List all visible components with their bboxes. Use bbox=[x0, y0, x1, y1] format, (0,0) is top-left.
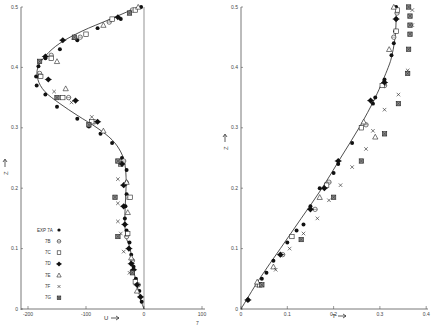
t-profile-plot: 00.10.20.30.40.5 00.10.20.30.4 T Z bbox=[223, 4, 430, 319]
footer-mark: 7 bbox=[196, 320, 199, 326]
y-tick-label: 0.4 bbox=[231, 64, 238, 70]
open-square-marker bbox=[126, 231, 130, 235]
x-marker bbox=[327, 199, 331, 203]
left-x-ticks: -200-1000100 bbox=[23, 306, 206, 317]
x-marker bbox=[316, 217, 320, 221]
y-tick-label: 0.5 bbox=[231, 4, 238, 10]
y-tick-label: 0.5 bbox=[11, 4, 18, 10]
x-marker bbox=[383, 108, 387, 112]
legend-label: 7D bbox=[45, 261, 52, 266]
x-tick-label: 0 bbox=[143, 311, 146, 317]
y-tick-label: 0 bbox=[15, 306, 18, 312]
y-tick-label: 0.3 bbox=[11, 124, 18, 130]
x-tick-label: 0.3 bbox=[376, 311, 383, 317]
filled-circle-marker bbox=[389, 53, 393, 57]
t-axis-label: T bbox=[332, 313, 336, 319]
z-axis-label-right: Z bbox=[223, 146, 229, 150]
open-triangle-marker bbox=[57, 273, 61, 277]
u-data-points bbox=[34, 4, 144, 303]
legend-label: 7C bbox=[45, 250, 52, 255]
open-triangle-marker bbox=[101, 22, 106, 27]
filled-circle-marker bbox=[58, 47, 62, 51]
filled-circle-marker bbox=[295, 229, 299, 233]
open-triangle-marker bbox=[54, 59, 59, 64]
open-triangle-marker bbox=[63, 86, 68, 91]
open-square-marker bbox=[84, 32, 88, 36]
open-square-marker bbox=[57, 251, 61, 255]
y-tick-label: 0.2 bbox=[231, 185, 238, 191]
x-marker bbox=[58, 285, 61, 288]
open-square-marker bbox=[110, 17, 114, 21]
x-marker bbox=[52, 90, 56, 94]
x-marker bbox=[350, 165, 354, 169]
x-marker bbox=[288, 247, 292, 251]
filled-circle-marker bbox=[285, 241, 289, 245]
open-square-marker bbox=[290, 234, 294, 238]
x-tick-label: -200 bbox=[23, 311, 33, 317]
x-marker bbox=[364, 147, 368, 151]
u-profile-plot: 00.10.20.30.40.5 -200-1000100 U Z EXP 7A… bbox=[3, 4, 206, 321]
x-tick-label: 0.4 bbox=[423, 311, 430, 317]
x-tick-label: 100 bbox=[198, 311, 207, 317]
x-marker bbox=[122, 250, 126, 254]
filled-circle-marker bbox=[36, 64, 40, 68]
filled-circle-marker bbox=[260, 277, 264, 281]
figure: 00.10.20.30.40.5 -200-1000100 U Z EXP 7A… bbox=[0, 0, 435, 326]
filled-circle-marker bbox=[35, 84, 39, 88]
open-triangle-marker bbox=[129, 255, 134, 260]
filled-circle-marker bbox=[264, 271, 268, 275]
filled-circle-marker bbox=[140, 300, 144, 304]
filled-circle-marker bbox=[128, 241, 132, 245]
y-tick-label: 0.3 bbox=[231, 124, 238, 130]
filled-circle-marker bbox=[34, 74, 38, 78]
filled-circle-marker bbox=[96, 26, 100, 30]
filled-circle-marker bbox=[110, 141, 114, 145]
x-tick-label: -100 bbox=[81, 311, 91, 317]
filled-circle-marker bbox=[123, 216, 127, 220]
x-tick-label: 0 bbox=[240, 311, 243, 317]
open-triangle-marker bbox=[317, 195, 322, 200]
x-marker bbox=[302, 232, 306, 236]
open-triangle-marker bbox=[125, 210, 130, 215]
open-triangle-marker bbox=[271, 264, 276, 269]
filled-circle-marker bbox=[373, 96, 377, 100]
filled-circle-marker bbox=[392, 41, 396, 45]
open-square-marker bbox=[39, 74, 43, 78]
open-triangle-marker bbox=[361, 119, 366, 124]
x-marker bbox=[70, 101, 74, 105]
x-marker bbox=[339, 183, 343, 187]
y-tick-label: 0.4 bbox=[11, 64, 18, 70]
open-triangle-marker bbox=[373, 134, 378, 139]
y-tick-label: 0.1 bbox=[231, 245, 238, 251]
open-triangle-marker bbox=[387, 47, 392, 52]
open-square-marker bbox=[359, 126, 363, 130]
u-axis-label: U bbox=[104, 315, 108, 321]
legend: EXP 7A7B7C7D7E7F7G bbox=[37, 228, 62, 301]
u-arrow-icon bbox=[111, 316, 119, 320]
legend-label: 7G bbox=[45, 295, 52, 300]
filled-circle-marker bbox=[55, 105, 59, 109]
filled-circle-marker bbox=[43, 93, 47, 97]
legend-label: EXP 7A bbox=[37, 228, 53, 233]
filled-circle-marker bbox=[271, 259, 275, 263]
open-square-marker bbox=[61, 95, 65, 99]
y-tick-label: 0 bbox=[235, 306, 238, 312]
legend-label: 7E bbox=[45, 273, 51, 278]
z-arrow-icon-right bbox=[223, 134, 227, 142]
t-data-points bbox=[244, 4, 414, 303]
open-square-marker bbox=[394, 29, 398, 33]
filled-circle-marker bbox=[125, 168, 129, 172]
x-tick-label: 0.1 bbox=[284, 311, 291, 317]
t-theory-curve bbox=[241, 7, 396, 309]
filled-circle-marker bbox=[332, 171, 336, 175]
x-marker bbox=[397, 93, 401, 97]
x-marker bbox=[371, 129, 375, 133]
filled-circle-marker bbox=[57, 228, 60, 231]
x-marker bbox=[116, 177, 120, 181]
x-marker bbox=[116, 202, 120, 206]
x-marker bbox=[90, 115, 94, 119]
z-axis-label-left: Z bbox=[3, 171, 9, 175]
legend-label: 7F bbox=[45, 284, 51, 289]
z-arrow-icon-left bbox=[3, 159, 7, 167]
filled-circle-marker bbox=[75, 117, 79, 121]
